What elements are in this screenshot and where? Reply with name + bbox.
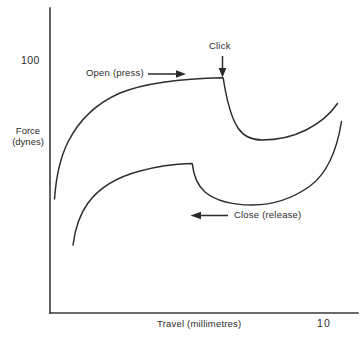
open-press-arrow-icon: [148, 70, 186, 77]
chart-canvas: [0, 0, 364, 350]
y-axis-title: Force (dynes): [7, 126, 49, 147]
x-axis-title: Travel (millimetres): [157, 319, 241, 330]
click-arrow-icon: [219, 56, 227, 78]
curve-close-release: [73, 122, 342, 246]
force-travel-chart: 100 Force (dynes) Travel (millimetres) 1…: [0, 0, 364, 350]
annotation-label-click: Click: [209, 41, 231, 52]
annotation-label-open-press: Open (press): [86, 68, 144, 79]
y-axis-tick-label-100: 100: [21, 55, 40, 67]
close-release-arrow-icon: [191, 212, 229, 219]
y-axis-title-line1: Force: [16, 125, 40, 136]
y-axis-title-line2: (dynes): [7, 137, 49, 148]
annotation-label-close-release: Close (release): [234, 210, 301, 221]
x-axis-tick-label-10: 10: [317, 318, 331, 330]
